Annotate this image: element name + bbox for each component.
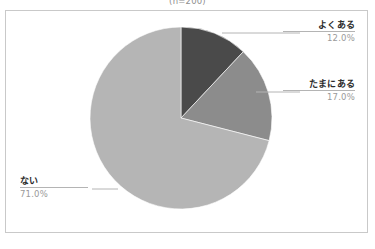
callout-value-yokuaru: 12.0% bbox=[283, 32, 355, 44]
callout-value-nai: 71.0% bbox=[20, 188, 88, 200]
pie-slice-group bbox=[90, 27, 272, 209]
callout-value-tamaniaru: 17.0% bbox=[283, 91, 355, 103]
callout-label-nai: ない bbox=[20, 176, 88, 187]
callout-label-tamaniaru: たまにある bbox=[283, 79, 355, 90]
callout-nai: ない 71.0% bbox=[20, 176, 88, 200]
pie-chart-figure: (n=200) よくある 12.0% たまにある 17.0% ない 71.0% bbox=[0, 0, 375, 249]
callout-tamaniaru: たまにある 17.0% bbox=[283, 79, 355, 103]
callout-yokuaru: よくある 12.0% bbox=[283, 20, 355, 44]
callout-label-yokuaru: よくある bbox=[283, 20, 355, 31]
